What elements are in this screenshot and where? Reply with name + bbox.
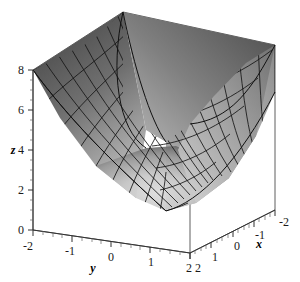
x-axis: 2 1 0 -1 -2 x [190, 210, 289, 275]
x-tick-label-2: 2 [195, 261, 201, 275]
x-tick-label-minus2: -2 [279, 215, 289, 229]
y-tick-label-0: 0 [108, 250, 114, 264]
z-tick-label-4: 4 [18, 143, 24, 157]
y-axis: -2 -1 0 1 2 y [23, 230, 192, 275]
y-tick-label-minus1: -1 [65, 244, 75, 258]
x-tick-label-0: 0 [234, 239, 240, 253]
z-tick-label-8: 8 [18, 63, 24, 77]
z-tick-label-0: 0 [18, 223, 24, 237]
z-tick-label-6: 6 [18, 103, 24, 117]
y-tick-label-minus2: -2 [23, 239, 33, 253]
paraboloid-surface [33, 12, 275, 211]
z-axis-title: z [10, 143, 16, 157]
y-tick-label-2: 2 [186, 261, 192, 275]
x-tick-label-1: 1 [212, 250, 218, 264]
x-axis-title: x [255, 237, 262, 251]
surface-plot-figure: 0 2 4 6 8 z [0, 0, 300, 282]
surface-plot-canvas: 0 2 4 6 8 z [0, 0, 300, 282]
y-axis-title: y [88, 261, 96, 275]
z-axis-major-ticks [28, 70, 33, 230]
z-tick-label-2: 2 [18, 183, 24, 197]
z-axis: 0 2 4 6 8 z [10, 63, 33, 237]
y-tick-label-1: 1 [148, 255, 154, 269]
